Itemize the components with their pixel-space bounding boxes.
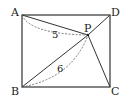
segment-bp (22, 35, 88, 87)
measure-label-bp: 6 (57, 63, 63, 74)
label-c: C (111, 85, 119, 98)
geometry-diagram: A D B C P 5 6 (0, 0, 128, 101)
label-a: A (10, 6, 20, 19)
label-p: P (84, 22, 92, 35)
label-d: D (111, 6, 120, 19)
label-b: B (11, 85, 19, 98)
segment-cp (88, 35, 110, 87)
measure-label-ap: 5 (52, 29, 58, 40)
